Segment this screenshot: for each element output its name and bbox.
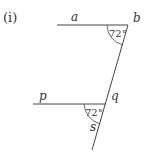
parallel-lines-diagram: (i) a b 72° p q 72° s: [0, 0, 148, 154]
transversal-line: [92, 25, 128, 150]
angle-bottom-label: 72°: [85, 107, 103, 118]
label-b: b: [133, 11, 141, 25]
label-p: p: [39, 89, 47, 103]
label-q: q: [111, 89, 119, 103]
figure-label: (i): [3, 10, 17, 25]
label-a: a: [71, 10, 78, 24]
label-s: s: [90, 120, 96, 134]
